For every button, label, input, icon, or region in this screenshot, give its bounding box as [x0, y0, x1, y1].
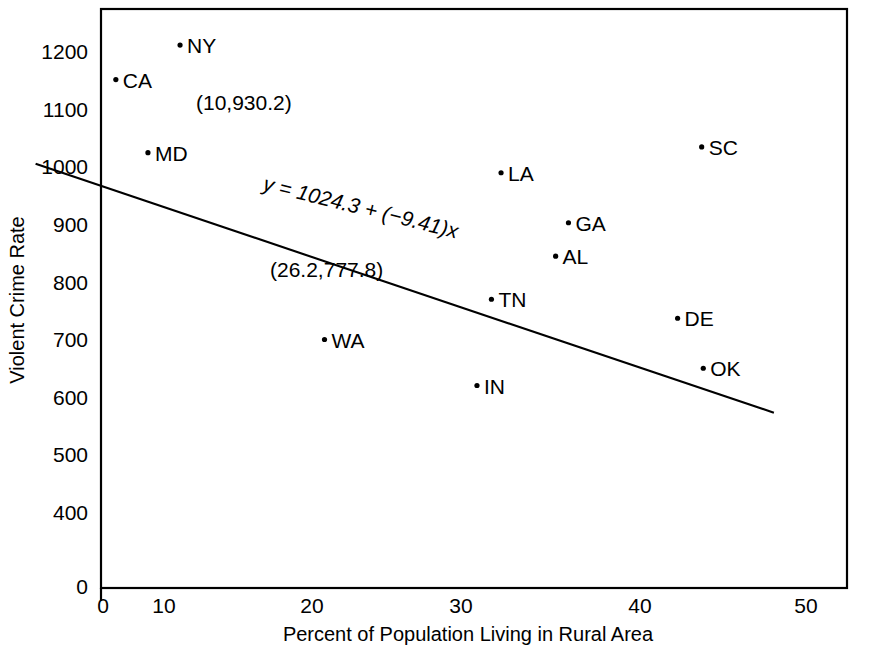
data-point-label: AL	[563, 245, 589, 268]
data-point-label: GA	[575, 212, 605, 235]
data-point-marker	[699, 144, 704, 149]
data-point-label: OK	[710, 357, 740, 380]
x-tick-label: 10	[152, 594, 175, 617]
data-point-label: WA	[332, 329, 365, 352]
y-tick-label: 500	[53, 443, 88, 466]
point-annotation-mean: (26.2,777.8)	[270, 258, 383, 281]
x-axis-tick-labels: 0 10 20 30 40 50	[97, 594, 818, 617]
x-axis-title: Percent of Population Living in Rural Ar…	[283, 623, 654, 645]
y-tick-label: 400	[53, 501, 88, 524]
x-tick-label: 20	[300, 594, 323, 617]
data-point-label: IN	[484, 375, 505, 398]
data-point-marker	[675, 316, 680, 321]
plot-canvas: 0 400 500 600 700 800 900 1000 1100 1200…	[0, 0, 876, 650]
regression-line	[36, 164, 774, 413]
data-point-label: TN	[498, 288, 526, 311]
data-point-marker	[553, 254, 558, 259]
scatter-plot-figure: 0 400 500 600 700 800 900 1000 1100 1200…	[0, 0, 876, 650]
data-point-marker	[113, 77, 118, 82]
y-tick-label: 900	[53, 213, 88, 236]
data-point-marker	[566, 220, 571, 225]
data-point-label: DE	[685, 307, 714, 330]
y-tick-label: 700	[53, 328, 88, 351]
data-point-marker	[145, 150, 150, 155]
y-tick-label: 800	[53, 271, 88, 294]
y-tick-label: 1200	[41, 40, 88, 63]
x-tick-label: 50	[794, 594, 817, 617]
x-tick-label: 40	[628, 594, 651, 617]
data-point-marker	[474, 383, 479, 388]
x-tick-label: 0	[97, 594, 109, 617]
data-point-marker	[322, 337, 327, 342]
data-point-label: CA	[123, 69, 152, 92]
y-axis-tick-labels: 0 400 500 600 700 800 900 1000 1100 1200	[41, 40, 88, 598]
data-point-marker	[498, 170, 503, 175]
x-tick-label: 30	[449, 594, 472, 617]
y-tick-label: 0	[76, 575, 88, 598]
data-point-label: NY	[187, 34, 216, 57]
data-point-marker	[177, 43, 182, 48]
regression-equation-label: y = 1024.3 + (−9.41)x	[259, 171, 462, 243]
data-point-marker	[489, 297, 494, 302]
data-point-label: SC	[709, 136, 738, 159]
data-point-marker	[701, 366, 706, 371]
y-tick-label: 1100	[43, 98, 88, 121]
y-axis-title: Violent Crime Rate	[6, 216, 28, 383]
data-point-label: LA	[508, 162, 534, 185]
point-annotation-ny: (10,930.2)	[196, 91, 292, 114]
data-point-label: MD	[155, 142, 188, 165]
y-tick-label: 600	[53, 386, 88, 409]
